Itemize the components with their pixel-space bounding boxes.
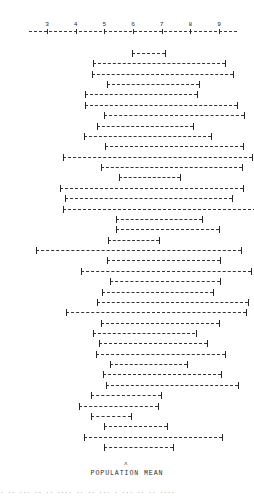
interval-line [105, 146, 243, 147]
interval-upper-cap [193, 123, 194, 130]
interval-upper-cap [232, 195, 233, 202]
interval-upper-cap [233, 71, 234, 78]
interval-upper-cap [238, 382, 239, 389]
interval-line [66, 312, 246, 313]
interval-lower-cap [103, 371, 104, 378]
interval-upper-cap [222, 434, 223, 441]
interval-line [102, 292, 213, 293]
interval-lower-cap [97, 123, 98, 130]
interval-lower-cap [119, 174, 120, 181]
axis-tick-5 [104, 29, 105, 34]
interval-upper-cap [251, 268, 252, 275]
interval-lower-cap [101, 164, 102, 171]
interval-lower-cap [93, 60, 94, 67]
interval-lower-cap [36, 247, 37, 254]
confidence-interval-row [0, 257, 254, 264]
interval-lower-cap [116, 216, 117, 223]
interval-upper-cap [237, 102, 238, 109]
interval-lower-cap [106, 382, 107, 389]
interval-lower-cap [110, 278, 111, 285]
confidence-interval-row [0, 112, 254, 119]
interval-lower-cap [108, 237, 109, 244]
interval-line [36, 250, 240, 251]
interval-line [81, 271, 250, 272]
confidence-interval-row [0, 91, 254, 98]
interval-lower-cap [84, 434, 85, 441]
interval-lower-cap [85, 91, 86, 98]
interval-lower-cap [84, 133, 85, 140]
confidence-interval-row [0, 351, 254, 358]
confidence-interval-row [0, 371, 254, 378]
interval-lower-cap [110, 361, 111, 368]
interval-line [93, 333, 196, 334]
interval-upper-cap [197, 91, 198, 98]
interval-upper-cap [161, 392, 162, 399]
interval-lower-cap [102, 289, 103, 296]
interval-lower-cap [104, 444, 105, 451]
confidence-interval-row [0, 403, 254, 410]
axis-tick-8 [190, 29, 191, 34]
interval-lower-cap [79, 403, 80, 410]
interval-lower-cap [91, 392, 92, 399]
interval-line [91, 416, 130, 417]
figure-caption-partial: · ·· ··· ·· ·· ···· ·· ·· ··· · ··· ·· ·… [0, 489, 254, 498]
interval-upper-cap [243, 143, 244, 150]
interval-line [116, 219, 203, 220]
axis-tick-label-3: 3 [42, 21, 52, 28]
interval-line [96, 354, 225, 355]
interval-line [63, 209, 254, 210]
interval-line [79, 406, 158, 407]
confidence-interval-row [0, 413, 254, 420]
axis-tick-7 [162, 29, 163, 34]
axis-tick-label-6: 6 [128, 21, 138, 28]
interval-upper-cap [242, 164, 243, 171]
confidence-interval-row [0, 361, 254, 368]
interval-lower-cap [104, 112, 105, 119]
axis-tick-6 [133, 29, 134, 34]
confidence-interval-row [0, 71, 254, 78]
confidence-interval-row [0, 102, 254, 109]
confidence-interval-row [0, 185, 254, 192]
interval-upper-cap [131, 413, 132, 420]
confidence-interval-row [0, 268, 254, 275]
interval-line [110, 281, 220, 282]
interval-lower-cap [81, 268, 82, 275]
interval-line [97, 302, 248, 303]
interval-lower-cap [66, 309, 67, 316]
interval-line [92, 74, 233, 75]
axis-tick-label-5: 5 [99, 21, 109, 28]
interval-line [110, 364, 187, 365]
interval-upper-cap [219, 320, 220, 327]
confidence-interval-row [0, 50, 254, 57]
confidence-interval-row [0, 133, 254, 140]
interval-upper-cap [252, 154, 253, 161]
confidence-interval-row [0, 174, 254, 181]
interval-lower-cap [65, 195, 66, 202]
confidence-interval-row [0, 123, 254, 130]
interval-lower-cap [107, 257, 108, 264]
interval-line [99, 343, 207, 344]
confidence-interval-row [0, 143, 254, 150]
interval-lower-cap [60, 185, 61, 192]
interval-lower-cap [97, 299, 98, 306]
interval-line [103, 374, 221, 375]
interval-upper-cap [165, 50, 166, 57]
interval-line [65, 198, 232, 199]
interval-upper-cap [207, 340, 208, 347]
interval-line [84, 136, 211, 137]
interval-line [104, 115, 244, 116]
interval-line [84, 437, 222, 438]
interval-line [119, 177, 180, 178]
interval-upper-cap [199, 81, 200, 88]
interval-line [93, 63, 225, 64]
axis-tick-4 [76, 29, 77, 34]
confidence-interval-row [0, 434, 254, 441]
interval-upper-cap [248, 299, 249, 306]
interval-upper-cap [225, 351, 226, 358]
confidence-interval-row [0, 392, 254, 399]
interval-upper-cap [241, 247, 242, 254]
population-mean-marker: ʌ [122, 461, 130, 467]
axis-tick-3 [47, 29, 48, 34]
interval-line [106, 385, 238, 386]
confidence-interval-row [0, 320, 254, 327]
